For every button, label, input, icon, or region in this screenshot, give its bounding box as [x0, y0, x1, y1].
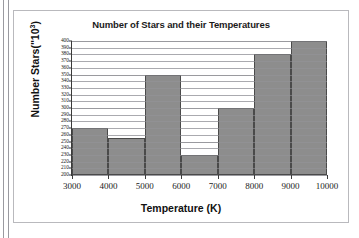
page-rail-left-inner	[8, 0, 9, 238]
y-axis-tick-label: 240	[61, 145, 69, 150]
x-axis-tick-mark	[327, 175, 328, 179]
x-axis-tick-mark	[72, 175, 73, 179]
bar	[108, 138, 144, 175]
x-axis-tick-mark	[145, 175, 146, 179]
page-background: Number of Stars and their Temperatures N…	[0, 0, 359, 238]
y-axis-tick-label: 350	[61, 72, 69, 77]
bar	[145, 75, 181, 176]
y-axis-tick-label: 360	[61, 65, 69, 70]
y-axis-tick-label: 290	[61, 112, 69, 117]
x-axis-tick-mark	[181, 175, 182, 179]
x-axis-tick-mark	[291, 175, 292, 179]
y-axis-tick-label: 230	[61, 152, 69, 157]
x-axis-tick-label: 8000	[245, 181, 263, 191]
bar	[181, 155, 217, 175]
y-axis-title: Number Stars("103)	[29, 10, 42, 128]
x-axis-tick-label: 3000	[63, 181, 81, 191]
y-axis-tick-label: 270	[61, 125, 69, 130]
y-axis-tick-label: 210	[61, 166, 69, 171]
x-axis-tick-mark	[108, 175, 109, 179]
y-axis-tick-label: 370	[61, 58, 69, 63]
chart-title: Number of Stars and their Temperatures	[14, 19, 348, 30]
page-rail-left-outer	[3, 0, 4, 238]
y-axis-tick-label: 330	[61, 85, 69, 90]
bar-group	[72, 41, 327, 175]
y-axis-tick-label: 280	[61, 119, 69, 124]
x-axis-tick-mark	[218, 175, 219, 179]
y-axis-title-exponent: 3	[29, 25, 36, 29]
y-axis-tick-label: 300	[61, 105, 69, 110]
y-axis-tick-label: 340	[61, 78, 69, 83]
y-axis-tick-label: 390	[61, 45, 69, 50]
chart-figure: Number of Stars and their Temperatures N…	[13, 10, 349, 223]
gridline	[72, 175, 327, 176]
x-axis-tick-mark	[254, 175, 255, 179]
y-axis-tick-label: 310	[61, 99, 69, 104]
x-axis-tick-label: 4000	[99, 181, 117, 191]
x-axis-title: Temperature (K)	[14, 202, 348, 214]
plot-area: 2002102202302402502602702802903003103203…	[71, 41, 327, 176]
bar	[218, 108, 254, 175]
y-axis-tick-label: 260	[61, 132, 69, 137]
y-axis-tick-label: 220	[61, 159, 69, 164]
x-axis-tick-label: 6000	[172, 181, 190, 191]
bar	[254, 54, 290, 175]
y-axis-tick-label: 200	[61, 172, 69, 177]
y-axis-tick-label: 250	[61, 139, 69, 144]
y-axis-title-suffix: )	[29, 21, 41, 25]
bar	[291, 41, 327, 175]
x-axis-tick-label: 5000	[136, 181, 154, 191]
x-axis-tick-label: 9000	[282, 181, 300, 191]
y-axis-tick-label: 400	[61, 38, 69, 43]
y-axis-tick-label: 380	[61, 52, 69, 57]
bar	[72, 128, 108, 175]
x-axis-tick-label: 7000	[209, 181, 227, 191]
y-axis-tick-label: 320	[61, 92, 69, 97]
x-axis-tick-label: 10000	[316, 181, 339, 191]
y-axis-title-prefix: Number Stars("10	[29, 28, 41, 117]
